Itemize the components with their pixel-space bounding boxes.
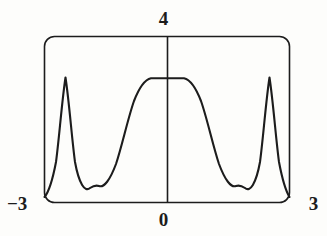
x-max-label: 3 (309, 194, 318, 213)
x-origin-label: 0 (0, 210, 327, 229)
plot-canvas (0, 0, 327, 236)
x-min-label: −3 (7, 194, 27, 213)
graph-figure: 4 0 −3 3 (0, 0, 327, 236)
y-max-label: 4 (0, 9, 327, 28)
